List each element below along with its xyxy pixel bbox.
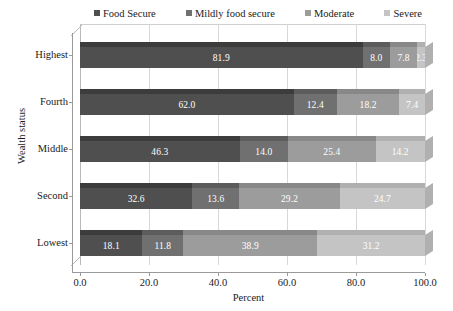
bar-segment[interactable]: 46.3 <box>80 141 240 162</box>
plot-area: 81.98.07.82.362.012.418.27.446.314.025.4… <box>72 24 425 273</box>
bar-segment-value-label: 62.0 <box>178 100 195 110</box>
bar-segment[interactable]: 32.6 <box>80 188 192 209</box>
y-axis-label-fourth: Fourth <box>4 96 68 108</box>
bar-segment[interactable]: 13.6 <box>192 188 239 209</box>
bar-front-face: 32.613.629.224.7 <box>80 188 425 209</box>
y-tick-0 <box>69 55 72 56</box>
bar-segment-value-label: 46.3 <box>151 147 168 157</box>
bar-front-face: 46.314.025.414.2 <box>80 141 425 162</box>
y-tick-1 <box>69 102 72 103</box>
legend-item-label: Mildly food secure <box>195 8 275 19</box>
y-axis-label-second: Second <box>4 190 68 202</box>
x-tick-4 <box>356 273 357 276</box>
y-tick-2 <box>69 149 72 150</box>
x-axis-line <box>72 272 425 273</box>
bar-segment-value-label: 18.1 <box>103 241 120 251</box>
y-axis-tick-labels: HighestFourthMiddleSecondLowest <box>0 24 68 273</box>
bar-segment-value-label: 24.7 <box>374 194 391 204</box>
bar-segment-value-label: 38.9 <box>242 241 259 251</box>
bar-row: 18.111.838.931.2 <box>80 230 425 256</box>
bar-segment-value-label: 12.4 <box>307 100 324 110</box>
bar-side-face <box>425 230 433 256</box>
bar-segment[interactable]: 25.4 <box>288 141 376 162</box>
bar-segment-value-label: 2.3 <box>417 53 425 63</box>
x-tick-0 <box>80 273 81 276</box>
chart-legend: Food SecureMildly food secureModerateSev… <box>88 4 428 22</box>
bar-segment-value-label: 31.2 <box>363 241 380 251</box>
legend-item-0[interactable]: Food Secure <box>94 8 156 19</box>
bar-segment[interactable]: 38.9 <box>183 235 317 256</box>
x-axis-label-0: 0.0 <box>55 277 105 289</box>
legend-item-2[interactable]: Moderate <box>305 8 354 19</box>
bar-segment[interactable]: 81.9 <box>80 47 363 68</box>
stacked-bar-chart: Food SecureMildly food secureModerateSev… <box>0 0 453 311</box>
legend-item-3[interactable]: Severe <box>384 8 422 19</box>
bar-side-face <box>425 136 433 162</box>
bar-row: 81.98.07.82.3 <box>80 42 425 68</box>
y-axis-title: Wealth status <box>16 86 28 186</box>
bar-segment-value-label: 11.8 <box>154 241 171 251</box>
bar-segment-value-label: 29.2 <box>281 194 298 204</box>
bar-segment[interactable]: 18.1 <box>80 235 142 256</box>
bar-segment[interactable]: 11.8 <box>142 235 183 256</box>
x-axis-label-4: 80.0 <box>331 277 381 289</box>
legend-item-label: Moderate <box>314 8 354 19</box>
y-axis-label-highest: Highest <box>4 49 68 61</box>
bar-side-face <box>425 42 433 68</box>
x-axis-label-2: 40.0 <box>193 277 243 289</box>
y-axis-label-middle: Middle <box>4 143 68 155</box>
bar-segment[interactable]: 24.7 <box>340 188 425 209</box>
bar-segment[interactable]: 14.2 <box>376 141 425 162</box>
legend-item-label: Food Secure <box>103 8 156 19</box>
bar-segment-value-label: 81.9 <box>213 53 230 63</box>
bar-row: 46.314.025.414.2 <box>80 136 425 162</box>
bar-segment[interactable]: 18.2 <box>337 94 400 115</box>
bar-row: 62.012.418.27.4 <box>80 89 425 115</box>
bar-segment[interactable]: 12.4 <box>294 94 337 115</box>
y-tick-3 <box>69 196 72 197</box>
bar-segment[interactable]: 62.0 <box>80 94 294 115</box>
x-tick-5 <box>425 273 426 276</box>
bar-segment-value-label: 25.4 <box>323 147 340 157</box>
y-tick-4 <box>69 243 72 244</box>
bar-front-face: 81.98.07.82.3 <box>80 47 425 68</box>
bar-segment-value-label: 14.2 <box>392 147 409 157</box>
x-axis-label-1: 20.0 <box>124 277 174 289</box>
bar-segment-value-label: 7.4 <box>406 100 418 110</box>
legend-item-1[interactable]: Mildly food secure <box>186 8 275 19</box>
square-swatch-icon <box>384 10 390 16</box>
bar-segment-value-label: 7.8 <box>398 53 410 63</box>
bar-side-face <box>425 89 433 115</box>
bar-segment-value-label: 13.6 <box>207 194 224 204</box>
bar-side-face <box>425 183 433 209</box>
y-axis-line <box>72 33 73 273</box>
bar-segment-value-label: 14.0 <box>255 147 272 157</box>
bar-segment[interactable]: 2.3 <box>417 47 425 68</box>
square-swatch-icon <box>94 10 100 16</box>
x-axis-tick-labels: 0.020.040.060.080.0100.0 <box>72 277 425 291</box>
square-swatch-icon <box>305 10 311 16</box>
legend-item-label: Severe <box>393 8 422 19</box>
bar-segment[interactable]: 14.0 <box>240 141 288 162</box>
bar-segment-value-label: 32.6 <box>128 194 145 204</box>
bar-row: 32.613.629.224.7 <box>80 183 425 209</box>
x-axis-title: Percent <box>72 292 425 304</box>
bar-segment[interactable]: 31.2 <box>317 235 425 256</box>
x-axis-label-3: 60.0 <box>262 277 312 289</box>
x-tick-2 <box>218 273 219 276</box>
bar-segment[interactable]: 7.8 <box>390 47 417 68</box>
x-tick-3 <box>287 273 288 276</box>
square-swatch-icon <box>186 10 192 16</box>
x-tick-1 <box>149 273 150 276</box>
bar-segment[interactable]: 29.2 <box>239 188 340 209</box>
bar-front-face: 62.012.418.27.4 <box>80 94 425 115</box>
y-axis-label-lowest: Lowest <box>4 237 68 249</box>
bar-segment-value-label: 18.2 <box>360 100 377 110</box>
bar-front-face: 18.111.838.931.2 <box>80 235 425 256</box>
bar-segment[interactable]: 7.4 <box>399 94 425 115</box>
bar-segment-value-label: 8.0 <box>370 53 382 63</box>
x-axis-label-5: 100.0 <box>400 277 450 289</box>
bar-segment[interactable]: 8.0 <box>363 47 391 68</box>
